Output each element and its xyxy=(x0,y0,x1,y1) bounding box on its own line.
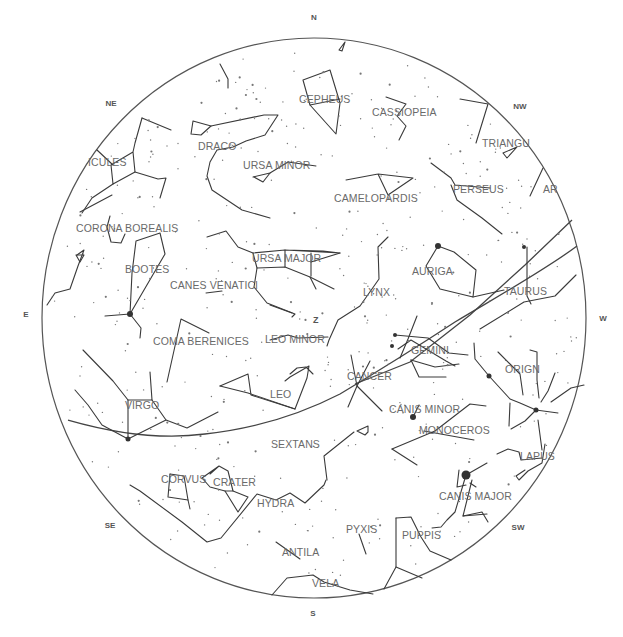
constellation-label: AURIGA xyxy=(412,265,453,277)
star-icon xyxy=(435,243,441,249)
star-icon xyxy=(487,374,492,379)
direction-label: E xyxy=(23,310,29,319)
direction-label: W xyxy=(599,314,607,323)
sky-chart: CEPHEUSCASSIOPEIATRIANGUDRACOURSA MINORI… xyxy=(0,0,623,637)
star-icon xyxy=(126,437,131,442)
constellation-label: HYDRA xyxy=(257,497,294,509)
constellation-label: CEPHEUS xyxy=(299,93,350,105)
star-icon xyxy=(534,408,539,413)
constellation-label: ORIGN xyxy=(505,363,540,375)
constellation-label: CASSIOPEIA xyxy=(372,106,437,118)
constellation-label: ICULES xyxy=(88,156,127,168)
constellation-label: COMA BERENICES xyxy=(153,335,249,347)
constellation-label: MONOCEROS xyxy=(419,424,490,436)
constellation-label: URSA MAJOR xyxy=(252,252,322,264)
constellation-label: GEMINI xyxy=(411,344,449,356)
constellation-label: URSA MINOR xyxy=(243,159,311,171)
constellation-label: SEXTANS xyxy=(271,438,320,450)
direction-label: NW xyxy=(513,102,527,111)
constellation-label: LYNX xyxy=(363,286,390,298)
constellation-label: CANIS MAJOR xyxy=(439,490,512,502)
star-icon xyxy=(127,311,133,317)
constellation-label: PYXIS xyxy=(346,523,377,535)
star-icon xyxy=(390,344,394,348)
constellation-label: TAURUS xyxy=(504,285,547,297)
star-icon xyxy=(522,245,526,249)
constellation-label: CANCER xyxy=(347,370,392,382)
constellation-label: LEO xyxy=(270,388,291,400)
direction-label: NE xyxy=(105,99,117,108)
constellation-label: CANIS MINOR xyxy=(389,403,460,415)
star-icon xyxy=(393,333,397,337)
direction-label: SW xyxy=(512,523,525,532)
constellation-label: TRIANGU xyxy=(482,137,530,149)
constellation-label: VIRGO xyxy=(125,399,159,411)
constellation-label: PUPPIS xyxy=(402,529,441,541)
star-icon xyxy=(462,471,471,480)
constellation-label: DRACO xyxy=(198,140,236,152)
constellation-label: LAPUS xyxy=(520,450,555,462)
constellation-label: VELA xyxy=(312,577,339,589)
constellation-label: LEO MINOR xyxy=(265,333,325,345)
constellation-label: CORONA BOREALIS xyxy=(76,222,178,234)
constellation-label: CANES VENATICI xyxy=(170,279,258,291)
constellation-label: ANTILA xyxy=(282,546,319,558)
constellation-label: CAMELOPARDIS xyxy=(334,192,418,204)
constellation-label: AR xyxy=(543,183,558,195)
constellation-label: CRATER xyxy=(213,476,256,488)
zenith-marker: Z xyxy=(313,315,319,325)
constellation-label: PERSEUS xyxy=(453,183,504,195)
direction-label: SE xyxy=(105,521,116,530)
constellation-label: BOOTES xyxy=(125,263,169,275)
direction-label: N xyxy=(311,13,317,22)
constellation-label: CORVUS xyxy=(161,473,206,485)
direction-label: S xyxy=(310,609,316,618)
